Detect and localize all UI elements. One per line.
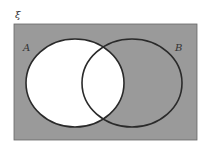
set-a-label: A: [22, 42, 30, 53]
universal-set-label: ξ: [15, 9, 21, 20]
set-b-label: B: [174, 42, 182, 53]
venn-diagram: ξ A B: [0, 0, 205, 149]
